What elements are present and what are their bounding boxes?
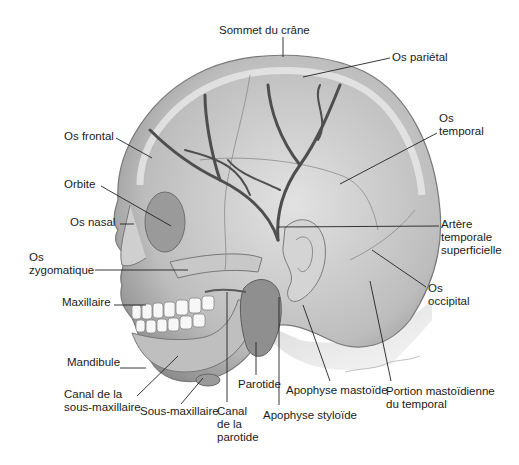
label-line: Sommet du crâne [219,24,310,37]
label-portion: Portion mastoïdiennedu temporal [386,385,495,411]
label-frontal: Os frontal [64,130,114,143]
label-mastoide: Apophyse mastoïde [286,384,388,397]
label-mandibule: Mandibule [67,356,120,369]
label-line: sous-maxillaire [64,401,141,414]
label-line: du temporal [386,398,495,411]
label-line: Os nasal [70,216,115,229]
label-line: Apophyse styloïde [263,409,357,422]
label-occipital: Osoccipital [428,282,470,308]
label-line: Artère [441,218,502,231]
label-arteretemp: Artèretemporalesuperficielle [441,218,502,257]
label-parotide: Parotide [238,378,281,391]
label-nasal: Os nasal [70,216,115,229]
label-line: Os frontal [64,130,114,143]
label-canalsous: Canal de lasous-maxillaire [64,388,141,414]
label-line: parotide [217,431,259,444]
label-styloide: Apophyse styloïde [263,409,357,422]
label-temporal: Ostemporal [439,112,484,138]
label-line: Canal [217,405,259,418]
label-line: Os [428,282,470,295]
label-line: temporale [441,231,502,244]
label-line: Os [439,112,484,125]
label-parietal: Os pariétal [392,51,448,64]
label-maxillaire: Maxillaire [62,296,111,309]
anatomy-figure: Sommet du crâneOs pariétalOstemporalOs f… [0,0,519,465]
parotid-gland [240,280,281,357]
label-line: Os [29,251,94,264]
submandibular-gland [196,374,220,386]
label-line: zygomatique [29,264,94,277]
label-line: Maxillaire [62,296,111,309]
label-line: Apophyse mastoïde [286,384,388,397]
label-line: Orbite [64,178,95,191]
label-line: de la [217,418,259,431]
label-line: Mandibule [67,356,120,369]
label-zygomatique: Oszygomatique [29,251,94,277]
label-sommet: Sommet du crâne [219,24,310,37]
label-line: occipital [428,295,470,308]
label-sousmax: Sous-maxillaire [140,405,219,418]
label-line: Canal de la [64,388,141,401]
label-line: Sous-maxillaire [140,405,219,418]
label-line: superficielle [441,244,502,257]
label-line: Portion mastoïdienne [386,385,495,398]
label-canalparo: Canalde laparotide [217,405,259,444]
label-orbite: Orbite [64,178,95,191]
label-line: temporal [439,125,484,138]
label-line: Parotide [238,378,281,391]
label-line: Os pariétal [392,51,448,64]
orbit [145,192,185,252]
